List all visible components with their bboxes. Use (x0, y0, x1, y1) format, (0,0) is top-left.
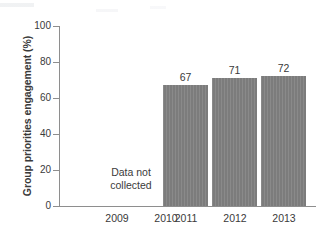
y-tick-label-60: 60 (25, 92, 51, 103)
bar-value-2012: 71 (212, 64, 257, 76)
y-tick-label-100: 100 (25, 20, 51, 31)
y-tick-label-80: 80 (25, 56, 51, 67)
y-axis-title: Group priorities engagement (%) (21, 21, 33, 211)
y-tick-label-0: 0 (25, 200, 51, 211)
y-tick-label-40: 40 (25, 128, 51, 139)
bar-chart-figure: Group priorities engagement (%) 100 80 6… (0, 0, 332, 239)
bar-2013[interactable] (261, 76, 306, 206)
x-tick-label-2011: 2011 (163, 212, 209, 224)
x-axis-line (59, 206, 316, 207)
scan-artifact (0, 0, 332, 22)
bar-2011[interactable] (163, 85, 208, 206)
bar-2012[interactable] (212, 78, 257, 206)
annotation-data-not-collected: Data not collected (98, 166, 164, 192)
annotation-line-2: collected (98, 179, 164, 192)
annotation-line-1: Data not (98, 166, 164, 179)
y-tick-0 (53, 206, 59, 207)
bar-value-2013: 72 (261, 62, 306, 74)
bar-value-2011: 67 (163, 71, 208, 83)
x-tick-label-2012: 2012 (212, 212, 258, 224)
y-tick-label-20: 20 (25, 164, 51, 175)
x-tick-label-2013: 2013 (261, 212, 307, 224)
x-tick-label-2009: 2009 (94, 212, 140, 224)
